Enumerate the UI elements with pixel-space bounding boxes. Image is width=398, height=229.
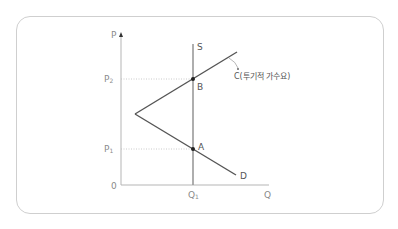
y-axis-label: P	[111, 30, 117, 40]
point-b	[191, 77, 195, 81]
p2-label: P2	[104, 74, 113, 84]
point-a	[191, 147, 195, 151]
supply-demand-diagram: P Q 0 P2 P1 Q1 S B A D C(투기적 가수요)	[0, 0, 398, 229]
speculative-demand-curve-c	[135, 52, 237, 114]
origin-label: 0	[111, 181, 117, 191]
p1-label: P1	[104, 144, 113, 154]
y-axis-arrow-icon	[119, 32, 123, 37]
demand-curve-d	[135, 114, 236, 175]
point-a-label: A	[198, 142, 205, 152]
speculative-demand-label: C(투기적 가수요)	[234, 71, 290, 81]
q1-label: Q1	[188, 190, 199, 200]
demand-label: D	[240, 171, 247, 181]
c-pointer-dot-icon	[237, 68, 239, 70]
c-label-pointer	[229, 58, 238, 68]
supply-label: S	[197, 42, 203, 52]
x-axis-label: Q	[264, 190, 271, 200]
point-b-label: B	[197, 82, 203, 92]
